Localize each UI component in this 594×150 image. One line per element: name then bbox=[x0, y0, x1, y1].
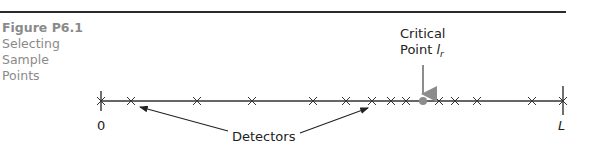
critical-label-line1: Critical bbox=[400, 26, 445, 41]
end-label: L bbox=[558, 118, 565, 133]
detector-pointer-right bbox=[300, 108, 368, 133]
critical-point-dot bbox=[419, 97, 427, 105]
detectors-label: Detectors bbox=[232, 129, 296, 144]
start-label: 0 bbox=[97, 118, 105, 133]
critical-label-line2: Point lr bbox=[400, 42, 445, 59]
detector-pointer-left bbox=[140, 107, 228, 131]
sample-points-diagram: Critical Point lr Detectors 0 L bbox=[0, 0, 594, 150]
